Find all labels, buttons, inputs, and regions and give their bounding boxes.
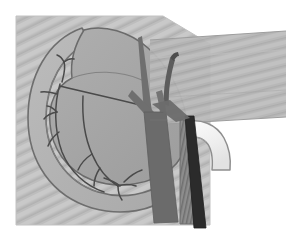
anatomical-illustration-svg	[0, 0, 286, 238]
illustration-canvas: Pancreaticoduodenal region with mesenter…	[0, 0, 286, 238]
